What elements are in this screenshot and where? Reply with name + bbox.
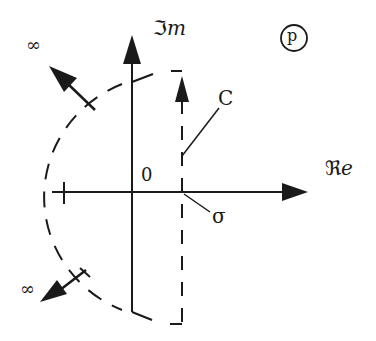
complex-plane-diagram: p ℑm ℜe 0 C σ ∞ ∞ [0,0,376,341]
real-axis [52,183,308,201]
infinity-label-upper: ∞ [26,36,41,54]
imaginary-text: m [167,16,186,40]
imaginary-symbol: ℑ [153,16,167,40]
real-axis-label: ℜe [325,158,353,178]
diagram-graphics [0,0,376,341]
infinity-arrow-lower [40,268,90,302]
infinity-arrow-upper [49,66,95,110]
origin-label: 0 [141,166,152,184]
imaginary-axis-label: ℑm [153,18,186,38]
bromwich-arrowhead-icon [175,76,189,102]
real-symbol: ℜ [325,156,341,180]
sigma-label: σ [212,206,226,226]
sigma-label-leader [184,194,210,212]
bromwich-line [170,71,189,325]
plane-label: p [287,28,297,44]
contour-arc [44,84,122,310]
real-text: e [341,156,353,180]
contour-label-leader [182,108,219,156]
real-axis-arrowhead-icon [282,183,308,201]
arrowhead-lower-icon [40,280,67,302]
contour-label: C [218,88,233,108]
infinity-label-lower: ∞ [20,280,35,298]
imaginary-axis-arrowhead-icon [123,35,141,64]
